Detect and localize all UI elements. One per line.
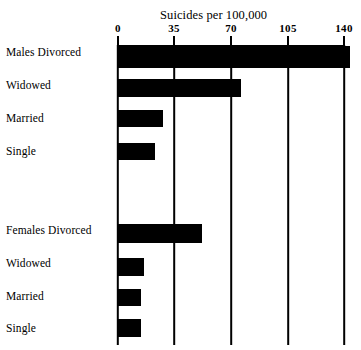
x-tick-label-105: 105 — [279, 22, 296, 34]
category-label-males-single: Single — [6, 145, 36, 157]
chart-title: Suicides per 100,000 — [160, 8, 267, 23]
x-tick-mark-70 — [230, 36, 232, 45]
gridline-105 — [287, 45, 289, 345]
x-tick-label-70: 70 — [225, 22, 237, 34]
suicides-bar-chart: Suicides per 100,000 0 35 70 105 140 Mal… — [0, 0, 361, 350]
category-label-females-widowed: Widowed — [6, 257, 51, 269]
category-label-males-married: Married — [6, 112, 44, 124]
x-tick-mark-140 — [343, 36, 345, 45]
x-tick-label-0: 0 — [115, 22, 121, 34]
category-label-females-divorced: Females Divorced — [6, 224, 92, 236]
category-label-females-married: Married — [6, 290, 44, 302]
category-label-males-widowed: Widowed — [6, 79, 51, 91]
bar-females-married — [118, 289, 141, 306]
bar-females-widowed — [118, 258, 144, 276]
bar-males-married — [118, 110, 163, 127]
bar-males-widowed — [118, 79, 241, 97]
x-tick-label-35: 35 — [168, 22, 180, 34]
category-label-females-single: Single — [6, 322, 36, 334]
bar-females-single — [118, 319, 141, 337]
bar-females-divorced — [118, 224, 202, 243]
x-tick-mark-0 — [117, 36, 119, 45]
bar-males-single — [118, 143, 155, 160]
x-tick-mark-105 — [287, 36, 289, 45]
gridline-140 — [343, 45, 345, 345]
x-tick-label-140: 140 — [335, 22, 352, 34]
category-label-males-divorced: Males Divorced — [6, 46, 81, 58]
bar-males-divorced — [118, 46, 350, 68]
x-tick-mark-35 — [173, 36, 175, 45]
